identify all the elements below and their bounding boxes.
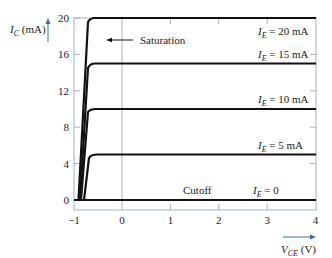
y-axis-arrow-icon xyxy=(46,18,51,24)
svg-text:0: 0 xyxy=(119,214,125,226)
svg-text:16: 16 xyxy=(58,48,70,60)
label-ie-5: IE = 5 mA xyxy=(257,139,303,154)
x-axis-label: VCE (V) xyxy=(281,235,316,258)
svg-text:2: 2 xyxy=(216,214,222,226)
curves xyxy=(74,18,316,200)
label-ie-20: IE = 20 mA xyxy=(257,25,309,40)
svg-text:8: 8 xyxy=(64,121,70,133)
saturation-annotation: Saturation xyxy=(106,34,186,46)
label-ie-0: IE = 0 xyxy=(252,184,279,199)
chart: 0 4 8 12 16 20 −1 0 1 2 3 4 IC (mA) VCE … xyxy=(0,0,332,258)
x-ticks xyxy=(170,18,267,210)
plot-frame xyxy=(74,18,316,210)
y-tick-labels: 0 4 8 12 16 20 xyxy=(58,12,70,206)
left-arrow-icon xyxy=(106,38,112,42)
svg-text:12: 12 xyxy=(58,85,69,97)
svg-text:−1: −1 xyxy=(68,214,80,226)
cutoff-annotation: Cutoff xyxy=(183,184,212,196)
svg-text:20: 20 xyxy=(58,12,70,24)
label-ie-15: IE = 15 mA xyxy=(257,48,309,63)
svg-text:3: 3 xyxy=(264,214,270,226)
svg-text:VCE (V): VCE (V) xyxy=(281,243,316,258)
svg-text:IC (mA): IC (mA) xyxy=(9,23,46,38)
x-axis-arrow-icon xyxy=(310,235,316,240)
svg-text:4: 4 xyxy=(64,158,70,170)
curve-labels: IE = 20 mA IE = 15 mA IE = 10 mA IE = 5 … xyxy=(252,25,309,199)
svg-text:4: 4 xyxy=(313,214,319,226)
x-tick-labels: −1 0 1 2 3 4 xyxy=(68,214,319,226)
y-axis-label: IC (mA) xyxy=(9,18,51,42)
svg-text:Saturation: Saturation xyxy=(140,34,186,46)
curve-ie-15 xyxy=(80,64,316,201)
svg-text:0: 0 xyxy=(64,194,70,206)
svg-text:1: 1 xyxy=(168,214,174,226)
label-ie-10: IE = 10 mA xyxy=(257,93,309,108)
